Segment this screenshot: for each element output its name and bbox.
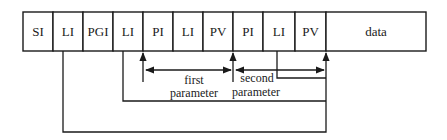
field-cell-pi: PI: [233, 12, 263, 51]
field-label: PGI: [88, 24, 109, 39]
field-cell-pv: PV: [295, 12, 326, 51]
field-label: SI: [32, 24, 44, 39]
second-parameter-label-line2: parameter: [232, 85, 280, 99]
field-label: PI: [242, 24, 254, 39]
field-cell-li: LI: [113, 12, 143, 51]
length-loop-pgi: [123, 51, 326, 101]
field-row: SILIPGILIPILIPVPILIPVdata: [23, 12, 426, 51]
first-parameter-label-line1: first: [184, 73, 204, 87]
field-label: PV: [302, 24, 319, 39]
second-parameter-label-line1: second: [240, 71, 273, 85]
first-parameter-label-line2: parameter: [170, 86, 218, 100]
protocol-field-diagram: SILIPGILIPILIPVPILIPVdata first paramete…: [0, 0, 447, 140]
field-cell-si: SI: [23, 12, 53, 51]
field-label: LI: [62, 24, 74, 39]
length-loop-second-li: [277, 51, 326, 78]
field-cell-pgi: PGI: [83, 12, 113, 51]
field-label: LI: [273, 24, 285, 39]
field-cell-li: LI: [53, 12, 83, 51]
field-label: PV: [210, 24, 227, 39]
field-cell-li: LI: [173, 12, 203, 51]
field-cell-data: data: [326, 12, 426, 51]
field-cell-pi: PI: [143, 12, 173, 51]
field-cell-pv: PV: [203, 12, 233, 51]
field-label: PI: [152, 24, 164, 39]
field-cell-li: LI: [263, 12, 295, 51]
field-label: LI: [122, 24, 134, 39]
field-label: LI: [182, 24, 194, 39]
field-label: data: [365, 24, 387, 39]
